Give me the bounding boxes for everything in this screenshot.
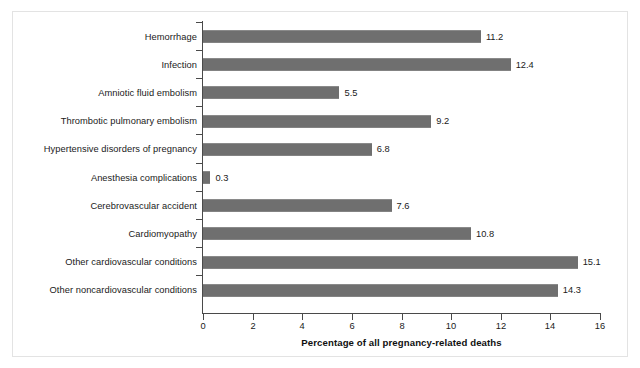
bar — [203, 143, 372, 156]
bar-value-label: 12.4 — [516, 60, 534, 70]
category-label: Other cardiovascular conditions — [65, 257, 197, 267]
x-axis-tick-label: 8 — [387, 321, 417, 331]
bar-value-label: 15.1 — [583, 257, 601, 267]
x-axis-tick-label: 10 — [436, 321, 466, 331]
x-axis-tick-label: 16 — [585, 321, 615, 331]
bar-value-label: 6.8 — [377, 144, 390, 154]
x-axis-tick — [451, 314, 452, 320]
bar — [203, 30, 481, 43]
x-axis-tick — [402, 314, 403, 320]
y-axis-tick — [196, 247, 202, 248]
x-axis-tick — [600, 314, 601, 320]
category-label: Anesthesia complications — [91, 173, 197, 183]
x-axis-tick-label: 4 — [287, 321, 317, 331]
x-axis-tick — [302, 314, 303, 320]
bar-value-label: 0.3 — [215, 173, 228, 183]
x-axis-tick-label: 2 — [238, 321, 268, 331]
x-axis-tick-label: 14 — [535, 321, 565, 331]
bar — [203, 58, 511, 71]
bar-value-label: 7.6 — [397, 201, 410, 211]
y-axis-tick — [196, 22, 202, 23]
plot-area: Percentage of all pregnancy-related deat… — [0, 0, 640, 368]
x-axis-title: Percentage of all pregnancy-related deat… — [202, 337, 601, 348]
x-axis-tick-label: 0 — [188, 321, 218, 331]
bar — [203, 171, 210, 184]
x-axis-tick-label: 6 — [337, 321, 367, 331]
chart-figure: Percentage of all pregnancy-related deat… — [0, 0, 640, 368]
category-label: Infection — [161, 60, 197, 70]
y-axis-tick — [196, 134, 202, 135]
x-axis-tick — [501, 314, 502, 320]
bar — [203, 227, 471, 240]
category-label: Cardiomyopathy — [129, 229, 197, 239]
category-label: Hypertensive disorders of pregnancy — [44, 144, 197, 154]
category-label: Hemorrhage — [145, 32, 197, 42]
bar-value-label: 10.8 — [476, 229, 494, 239]
x-axis-tick — [253, 314, 254, 320]
bar — [203, 284, 558, 297]
bar — [203, 256, 578, 269]
category-label: Cerebrovascular accident — [90, 201, 197, 211]
y-axis-tick — [196, 163, 202, 164]
x-axis-tick — [550, 314, 551, 320]
bar-value-label: 14.3 — [563, 285, 581, 295]
y-axis-tick — [196, 78, 202, 79]
category-label: Amniotic fluid embolism — [98, 88, 197, 98]
bar — [203, 199, 392, 212]
y-axis-tick — [196, 106, 202, 107]
bar-value-label: 9.2 — [436, 116, 449, 126]
category-label: Thrombotic pulmonary embolism — [61, 116, 197, 126]
y-axis-tick — [196, 275, 202, 276]
category-label: Other noncardiovascular conditions — [50, 285, 197, 295]
x-axis-tick — [352, 314, 353, 320]
y-axis-tick — [196, 219, 202, 220]
bar-value-label: 11.2 — [486, 32, 503, 42]
bar-value-label: 5.5 — [344, 88, 357, 98]
y-axis-tick — [196, 191, 202, 192]
y-axis-tick — [196, 50, 202, 51]
x-axis-tick — [203, 314, 204, 320]
bar — [203, 115, 431, 128]
x-axis-tick-label: 12 — [486, 321, 516, 331]
bar — [203, 86, 339, 99]
